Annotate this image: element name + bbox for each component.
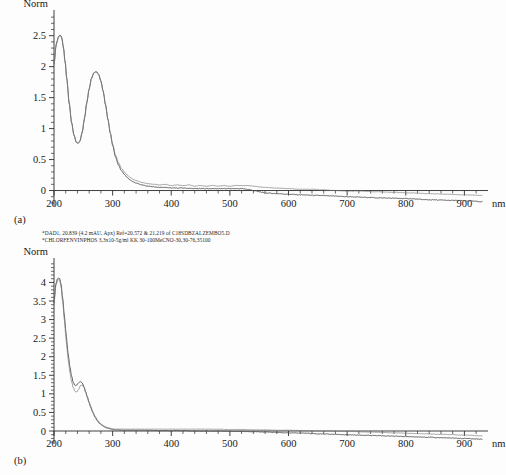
y-tick-label: 1.5	[33, 370, 46, 381]
chart-panel-a: 200300400500600700800900nm00.511.522.5No…	[0, 0, 506, 228]
y-tick-label: 3	[41, 314, 46, 325]
x-axis-title: nm	[492, 438, 505, 449]
x-tick-label: 600	[281, 198, 297, 209]
x-tick-label: 700	[339, 198, 355, 209]
spectrum-trace-sample	[54, 35, 482, 202]
panel-a-label: (a)	[14, 214, 26, 225]
y-tick-label: 3.5	[33, 296, 46, 307]
spectrum-trace-reference	[54, 36, 482, 196]
figure-caption: *DAD1, 20.839 (4.2 mAU, Apx) Ref=20.572 …	[42, 230, 342, 244]
y-tick-label: 2	[41, 61, 46, 72]
x-axis-title: nm	[492, 198, 505, 209]
spectrum-chart-b: 200300400500600700800900nm00.511.522.533…	[0, 248, 506, 475]
y-tick-label: 2.5	[33, 333, 46, 344]
spectrum-trace-sample	[54, 278, 482, 439]
panel-b-label: (b)	[14, 455, 26, 466]
x-tick-label: 800	[398, 438, 414, 449]
chart-panel-b: 200300400500600700800900nm00.511.522.533…	[0, 248, 506, 475]
x-tick-label: 400	[163, 438, 179, 449]
y-tick-label: 1.5	[33, 92, 46, 103]
x-tick-label: 300	[105, 198, 121, 209]
y-axis-title: Norm	[24, 0, 49, 9]
spectrum-trace-reference	[54, 280, 482, 436]
y-tick-label: 1	[41, 123, 46, 134]
x-tick-label: 900	[457, 438, 473, 449]
y-tick-label: 0	[41, 426, 46, 437]
y-tick-label: 1	[41, 388, 46, 399]
x-tick-label: 600	[281, 438, 297, 449]
y-tick-label: 0	[41, 185, 46, 196]
x-tick-label: 500	[222, 438, 238, 449]
x-tick-label: 400	[163, 198, 179, 209]
x-tick-label: 500	[222, 198, 238, 209]
x-tick-label: 300	[105, 438, 121, 449]
y-tick-label: 0.5	[33, 407, 46, 418]
y-tick-label: 4	[41, 277, 47, 288]
caption-line-2: *CHLORFENVINPHOS 3,3x10-5g/ml KK 30-100M…	[42, 237, 342, 244]
y-axis-title: Norm	[24, 248, 49, 257]
x-tick-label: 700	[339, 438, 355, 449]
uv-spectra-figure: 200300400500600700800900nm00.511.522.5No…	[0, 0, 506, 475]
y-tick-label: 0.5	[33, 154, 46, 165]
x-tick-label: 900	[457, 198, 473, 209]
spectrum-chart-a: 200300400500600700800900nm00.511.522.5No…	[0, 0, 506, 228]
y-tick-label: 2.5	[33, 30, 46, 41]
caption-line-1: *DAD1, 20.839 (4.2 mAU, Apx) Ref=20.572 …	[42, 230, 342, 237]
y-tick-label: 2	[41, 351, 46, 362]
